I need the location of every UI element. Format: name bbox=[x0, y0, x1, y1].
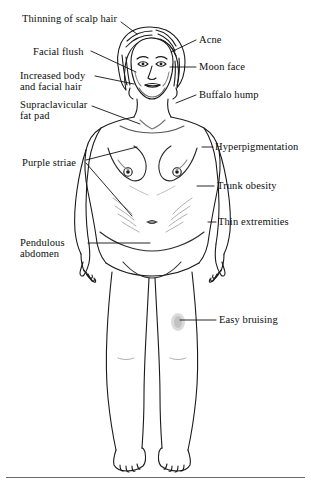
label-increased-body-hair-line1: Increased body bbox=[20, 70, 85, 82]
label-thin-extremities: Thin extremities bbox=[218, 216, 289, 228]
label-easy-bruising: Easy bruising bbox=[219, 314, 278, 326]
label-buffalo-hump: Buffalo hump bbox=[199, 89, 259, 101]
label-acne: Acne bbox=[199, 34, 222, 46]
label-supraclavicular-fat-pad-line2: fat pad bbox=[20, 110, 50, 122]
label-thinning-of-scalp-hair: Thinning of scalp hair bbox=[22, 13, 117, 25]
label-hyperpigmentation: Hyperpigmentation bbox=[215, 141, 298, 153]
label-purple-striae: Purple striae bbox=[22, 157, 76, 169]
bottom-divider bbox=[6, 477, 305, 478]
cushing-syndrome-figure: Thinning of scalp hair Acne Facial flush… bbox=[0, 0, 311, 486]
label-facial-flush: Facial flush bbox=[33, 46, 83, 58]
label-trunk-obesity: Trunk obesity bbox=[217, 180, 277, 192]
label-moon-face: Moon face bbox=[199, 61, 245, 73]
label-increased-body-hair-line2: and facial hair bbox=[20, 81, 82, 93]
label-pendulous-abdomen-line2: abdomen bbox=[20, 248, 59, 260]
label-supraclavicular-fat-pad-line1: Supraclavicular bbox=[20, 99, 87, 111]
label-pendulous-abdomen-line1: Pendulous bbox=[20, 237, 65, 249]
